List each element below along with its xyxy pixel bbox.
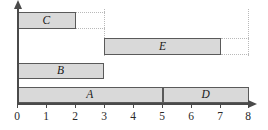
guide-line-bar-e-bottom: [221, 54, 249, 55]
bar-c: C: [17, 12, 76, 29]
x-tick-8: [248, 103, 249, 107]
x-tick-7: [220, 103, 221, 107]
bar-e: E: [104, 38, 221, 55]
y-axis: [17, 8, 19, 104]
x-tick-label-7: 7: [212, 110, 228, 122]
bar-label-c: C: [43, 15, 51, 26]
x-tick-label-8: 8: [240, 110, 256, 122]
x-tick-6: [191, 103, 192, 107]
x-tick-0: [17, 103, 18, 107]
x-axis-arrow-icon: [248, 100, 257, 108]
bar-b: B: [17, 63, 104, 80]
x-tick-2: [75, 103, 76, 107]
guide-line-bar-c-bottom: [76, 28, 105, 29]
x-tick-label-1: 1: [38, 110, 54, 122]
bar-label-a: A: [86, 89, 93, 100]
x-tick-5: [162, 103, 163, 107]
bar-d: D: [163, 87, 250, 104]
x-tick-label-0: 0: [9, 110, 25, 122]
guide-line-bar-c-top: [76, 12, 105, 13]
guide-line-bar-e-top: [221, 38, 249, 39]
x-tick-1: [46, 103, 47, 107]
x-tick-label-6: 6: [183, 110, 199, 122]
gantt-bar-chart: C E B A D 0 1 2 3 4 5 6 7 8: [0, 0, 268, 130]
x-tick-label-4: 4: [125, 110, 141, 122]
y-axis-arrow-icon: [14, 0, 22, 9]
x-tick-4: [133, 103, 134, 107]
bar-label-b: B: [57, 65, 64, 76]
x-tick-label-2: 2: [67, 110, 83, 122]
x-tick-label-5: 5: [154, 110, 170, 122]
bar-label-d: D: [201, 89, 210, 100]
bar-a: A: [17, 87, 163, 104]
x-tick-label-3: 3: [96, 110, 112, 122]
bar-label-e: E: [159, 41, 166, 52]
guide-line-x8: [248, 9, 249, 56]
x-tick-3: [104, 103, 105, 107]
